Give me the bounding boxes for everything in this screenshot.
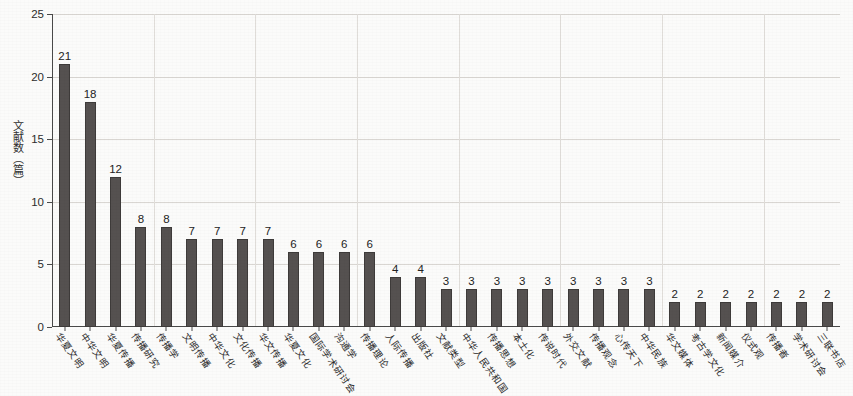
bar-item: 7: [209, 239, 225, 327]
bar-rect: [491, 289, 502, 327]
bar-value-label: 3: [443, 275, 449, 287]
bar-value-label: 4: [392, 263, 398, 275]
bar-item: 8: [133, 227, 149, 327]
y-tick-label: 20: [31, 71, 44, 83]
bar-rect: [669, 302, 680, 327]
bar-value-label: 8: [138, 213, 144, 225]
bar-value-label: 6: [341, 238, 347, 250]
x-axis-label: 沟通学: [333, 331, 359, 362]
bar-item: 2: [718, 302, 734, 327]
bar-rect: [313, 252, 324, 327]
bar-value-label: 4: [417, 263, 423, 275]
bar-item: 4: [413, 277, 429, 327]
bar-item: 2: [667, 302, 683, 327]
bar-rect: [720, 302, 731, 327]
bar-item: 2: [743, 302, 759, 327]
bar-value-label: 2: [672, 288, 678, 300]
y-axis-title: 文献数（篇）: [2, 120, 24, 186]
y-tick-mark: [47, 327, 52, 328]
bar-value-label: 21: [58, 50, 71, 62]
bar-item: 18: [82, 102, 98, 327]
bar-value-label: 3: [544, 275, 550, 287]
x-axis-category-labels: 华夏文明中华文明华夏传播传播研究传播学文明传播中华文化文化传播华文传播华夏文化国…: [52, 329, 853, 396]
bar-rect: [212, 239, 223, 327]
bar-rect: [186, 239, 197, 327]
bar-value-label: 7: [189, 225, 195, 237]
bar-item: 2: [794, 302, 810, 327]
bar-value-label: 2: [722, 288, 728, 300]
bar-value-label: 3: [646, 275, 652, 287]
bar-value-label: 6: [290, 238, 296, 250]
bar-rect: [161, 227, 172, 327]
bar-item: 3: [616, 289, 632, 327]
bar-item: 21: [57, 64, 73, 327]
bar-value-label: 6: [316, 238, 322, 250]
bar-item: 7: [184, 239, 200, 327]
bar-value-label: 3: [468, 275, 474, 287]
bar-value-label: 2: [697, 288, 703, 300]
bar-rect: [517, 289, 528, 327]
bar-value-label: 3: [570, 275, 576, 287]
bar-item: 7: [260, 239, 276, 327]
bar-value-label: 2: [748, 288, 754, 300]
bar-item: 12: [108, 177, 124, 327]
bar-rect: [796, 302, 807, 327]
bar-value-label: 3: [519, 275, 525, 287]
plot-area: 0510152025 21181288777766664433333333322…: [52, 14, 840, 327]
bar-rect: [568, 289, 579, 327]
bars-layer: 2118128877776666443333333332222222: [52, 14, 840, 327]
x-axis-label: 传播学: [155, 331, 181, 362]
bar-item: 3: [514, 289, 530, 327]
bar-value-label: 2: [824, 288, 830, 300]
bar-value-label: 3: [494, 275, 500, 287]
bar-rect: [822, 302, 833, 327]
bar-item: 4: [387, 277, 403, 327]
bar-rect: [110, 177, 121, 327]
bar-rect: [237, 239, 248, 327]
bar-rect: [263, 239, 274, 327]
bar-rect: [339, 252, 350, 327]
bar-value-label: 7: [265, 225, 271, 237]
x-axis-label: 出版社: [409, 331, 435, 362]
bar-rect: [415, 277, 426, 327]
bar-item: 3: [641, 289, 657, 327]
bar-item: 6: [285, 252, 301, 327]
bar-value-label: 7: [239, 225, 245, 237]
x-axis-label: 本土化: [511, 331, 537, 362]
y-tick-label: 0: [38, 321, 44, 333]
bar-rect: [593, 289, 604, 327]
bar-rect: [390, 277, 401, 327]
bar-value-label: 12: [109, 163, 122, 175]
bar-value-label: 18: [84, 88, 97, 100]
bar-chart-figure: 文献数（篇） 0510152025 2118128877776666443333…: [0, 0, 853, 396]
bar-rect: [59, 64, 70, 327]
y-tick-label: 15: [31, 133, 44, 145]
bar-rect: [441, 289, 452, 327]
bar-rect: [542, 289, 553, 327]
bar-rect: [85, 102, 96, 327]
y-tick-label: 10: [31, 196, 44, 208]
bar-rect: [695, 302, 706, 327]
bar-item: 3: [540, 289, 556, 327]
bar-item: 2: [768, 302, 784, 327]
bar-item: 8: [158, 227, 174, 327]
bar-item: 6: [311, 252, 327, 327]
bar-rect: [135, 227, 146, 327]
bar-item: 3: [438, 289, 454, 327]
bar-item: 3: [591, 289, 607, 327]
bar-value-label: 3: [595, 275, 601, 287]
bar-value-label: 8: [163, 213, 169, 225]
bar-rect: [771, 302, 782, 327]
bar-value-label: 2: [799, 288, 805, 300]
x-axis-label: 仪式观: [740, 331, 766, 362]
bar-item: 6: [336, 252, 352, 327]
bar-rect: [746, 302, 757, 327]
bar-value-label: 3: [621, 275, 627, 287]
bar-item: 7: [235, 239, 251, 327]
bar-item: 3: [565, 289, 581, 327]
bar-value-label: 2: [773, 288, 779, 300]
bar-value-label: 7: [214, 225, 220, 237]
bar-item: 6: [362, 252, 378, 327]
bar-item: 3: [489, 289, 505, 327]
bar-value-label: 6: [367, 238, 373, 250]
